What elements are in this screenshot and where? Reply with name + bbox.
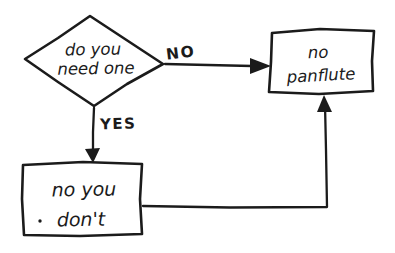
result-box-text-line1: no xyxy=(307,43,328,63)
decision-text-line2: need one xyxy=(57,58,135,78)
no-edge-line xyxy=(165,64,252,66)
flowchart-canvas: do you need one NO YES no panflute no yo… xyxy=(0,0,395,253)
loopback-edge-line xyxy=(143,104,327,208)
no-edge-label: NO xyxy=(165,42,196,63)
panflute-flowchart: do you need one NO YES no panflute no yo… xyxy=(0,0,395,253)
yes-box-text-line1: no you xyxy=(51,177,116,200)
yes-edge-label: YES xyxy=(99,114,137,133)
loopback-arrowhead xyxy=(317,95,332,112)
no-arrowhead xyxy=(250,58,271,74)
decision-text-line1: do you xyxy=(65,40,121,60)
yes-edge-line xyxy=(93,108,94,151)
flowchart-text: do you need one NO YES no panflute no yo… xyxy=(51,40,355,231)
yes-box-text-line2: don't xyxy=(57,208,107,231)
result-box-text-line2: panflute xyxy=(285,64,356,87)
ink-dot xyxy=(38,219,41,222)
yes-arrowhead xyxy=(85,148,100,163)
